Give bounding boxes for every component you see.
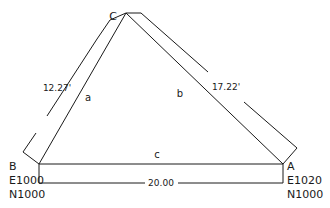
triangle-diagram: 12.27' 17.22' 20.00 a b c C B E1000 N100… [0,0,330,208]
vertex-b-easting: E1000 [9,174,44,187]
vertex-label-c: C [109,10,117,23]
dimension-line-b-upper [126,13,208,72]
side-label-c: c [154,149,160,160]
side-label-a: a [85,92,91,103]
dimension-label-b: 17.22' [212,82,240,92]
vertex-a-easting: E1020 [287,174,322,187]
dimension-line-c-left [39,164,145,183]
vertex-label-a: A [287,160,295,173]
side-label-b: b [177,88,183,99]
dimension-line-c-right [178,164,283,183]
dimension-line-a-lower [23,133,39,164]
vertex-label-b: B [9,160,17,173]
triangle-outline [39,13,283,164]
vertex-a-northing: N1000 [287,188,323,201]
dimension-line-b-lower [244,102,297,164]
dimension-label-c: 20.00 [148,178,174,188]
dimension-label-a: 12.27' [43,83,71,93]
vertex-b-northing: N1000 [9,188,45,201]
